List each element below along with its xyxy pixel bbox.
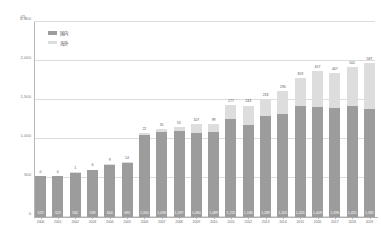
bar-segment-domestic[interactable]: 1,382 <box>364 109 375 217</box>
bar-label-domestic: 1,093 <box>157 212 166 216</box>
bar-segment-overseas[interactable]: 243 <box>243 106 254 125</box>
bar-column[interactable]: 3591,420 <box>295 22 306 217</box>
x-axis-tickmark <box>41 217 42 219</box>
y-axis-tick: 2,500 <box>1 16 31 21</box>
bar-segment-domestic[interactable]: 1,289 <box>260 116 271 217</box>
bar-segment-overseas[interactable]: 587 <box>364 63 375 109</box>
bar-column[interactable]: 4571,409 <box>312 22 323 217</box>
bar-label-domestic: 1,396 <box>330 212 339 216</box>
legend-swatch-overseas-icon <box>48 41 57 44</box>
x-axis-tick: 2006 <box>139 220 150 224</box>
bar-label-overseas: 501 <box>349 62 355 66</box>
x-axis-tickmark <box>214 217 215 219</box>
bar-column[interactable]: 311,093 <box>156 22 167 217</box>
bar-segment-overseas[interactable]: 107 <box>191 124 202 132</box>
bar-segment-overseas[interactable]: 177 <box>225 105 236 119</box>
legend-swatch-domestic-icon <box>48 31 57 34</box>
x-axis-tickmark <box>196 217 197 219</box>
bar-column[interactable]: 0529 <box>35 22 46 217</box>
bar-column[interactable]: 551,097 <box>174 22 185 217</box>
bar-segment-domestic[interactable]: 1,396 <box>329 108 340 217</box>
x-axis-tickmark <box>248 217 249 219</box>
bar-segment-overseas[interactable]: 359 <box>295 78 306 106</box>
bar-label-domestic: 1,382 <box>365 212 374 216</box>
bar-column[interactable]: 4471,396 <box>329 22 340 217</box>
bar-label-overseas: 243 <box>245 100 251 104</box>
x-axis-tick: 2002 <box>70 220 81 224</box>
x-axis-tick: 2019 <box>364 220 375 224</box>
bar-segment-domestic[interactable]: 529 <box>35 176 46 217</box>
bar-column[interactable]: 6598 <box>87 22 98 217</box>
bar-segment-domestic[interactable]: 598 <box>87 170 98 217</box>
bar-label-domestic: 562 <box>72 212 78 216</box>
bar-segment-domestic[interactable]: 523 <box>52 176 63 217</box>
bar-label-overseas: 457 <box>315 66 321 70</box>
chart-container: (円) 05001,0001,5002,0002,500 05290523156… <box>0 0 381 243</box>
bar-label-overseas: 0 <box>40 171 42 175</box>
bar-segment-overseas[interactable]: 218 <box>260 99 271 116</box>
x-axis-tickmark <box>352 217 353 219</box>
x-axis-tick-labels: 2000200120022003200420052006200720082009… <box>35 220 375 224</box>
bar-segment-overseas[interactable]: 290 <box>277 91 288 114</box>
bar-series-group: 0529052315626598966414694221,050311,0935… <box>35 22 375 217</box>
bar-label-overseas: 9 <box>109 159 111 163</box>
bar-segment-overseas[interactable]: 447 <box>329 73 340 108</box>
y-axis-tick-labels: 05001,0001,5002,0002,500 <box>0 22 31 218</box>
bar-segment-domestic[interactable]: 1,097 <box>174 131 185 217</box>
bar-segment-domestic[interactable]: 1,420 <box>347 106 358 217</box>
bar-label-domestic: 598 <box>90 212 96 216</box>
x-axis-line <box>34 217 378 218</box>
bar-segment-domestic[interactable]: 1,325 <box>277 114 288 217</box>
bar-label-overseas: 447 <box>332 68 338 72</box>
bar-column[interactable]: 2901,325 <box>277 22 288 217</box>
bar-column[interactable]: 991,089 <box>208 22 219 217</box>
bar-segment-overseas[interactable]: 99 <box>208 124 219 132</box>
x-axis-tick: 2001 <box>52 220 63 224</box>
bar-label-domestic: 1,255 <box>227 212 236 216</box>
bar-column[interactable]: 1071,080 <box>191 22 202 217</box>
x-axis-tick: 2017 <box>329 220 340 224</box>
bar-column[interactable]: 221,050 <box>139 22 150 217</box>
bar-label-overseas: 587 <box>367 58 373 62</box>
x-axis-tick: 2007 <box>156 220 167 224</box>
bar-segment-domestic[interactable]: 562 <box>70 173 81 217</box>
bar-segment-domestic[interactable]: 1,255 <box>225 119 236 217</box>
bar-segment-domestic[interactable]: 1,080 <box>191 133 202 217</box>
bar-column[interactable]: 5011,420 <box>347 22 358 217</box>
bar-label-overseas: 0 <box>57 171 59 175</box>
bar-label-overseas: 22 <box>142 128 146 132</box>
x-axis-tickmark <box>231 217 232 219</box>
x-axis-tick: 2009 <box>191 220 202 224</box>
x-axis-tick: 2003 <box>87 220 98 224</box>
bar-column[interactable]: 1771,255 <box>225 22 236 217</box>
bar-segment-domestic[interactable]: 1,420 <box>295 106 306 217</box>
x-axis-tick: 2008 <box>174 220 185 224</box>
bar-column[interactable]: 0523 <box>52 22 63 217</box>
x-axis-tick: 2000 <box>35 220 46 224</box>
bar-segment-domestic[interactable]: 1,089 <box>208 132 219 217</box>
bar-segment-domestic[interactable]: 694 <box>122 163 133 217</box>
bar-label-domestic: 1,186 <box>244 212 253 216</box>
bar-segment-overseas[interactable]: 501 <box>347 67 358 106</box>
y-axis-tick: 1,000 <box>1 133 31 138</box>
bar-column[interactable]: 14694 <box>122 22 133 217</box>
x-axis-tick: 2013 <box>260 220 271 224</box>
bar-column[interactable]: 9664 <box>104 22 115 217</box>
x-axis-tickmark <box>92 217 93 219</box>
bar-segment-domestic[interactable]: 1,093 <box>156 132 167 217</box>
bar-column[interactable]: 1562 <box>70 22 81 217</box>
x-axis-tickmark <box>370 217 371 219</box>
bar-segment-overseas[interactable]: 457 <box>312 71 323 107</box>
bar-column[interactable]: 5871,382 <box>364 22 375 217</box>
bar-segment-domestic[interactable]: 1,409 <box>312 107 323 217</box>
x-axis-tick: 2005 <box>122 220 133 224</box>
bar-segment-domestic[interactable]: 664 <box>104 165 115 217</box>
x-axis-tickmark <box>162 217 163 219</box>
bar-label-domestic: 1,325 <box>278 212 287 216</box>
bar-segment-domestic[interactable]: 1,050 <box>139 135 150 217</box>
bar-label-domestic: 1,050 <box>140 212 149 216</box>
bar-column[interactable]: 2181,289 <box>260 22 271 217</box>
bar-segment-domestic[interactable]: 1,186 <box>243 125 254 218</box>
bar-column[interactable]: 2431,186 <box>243 22 254 217</box>
bar-label-overseas: 1 <box>74 167 76 171</box>
